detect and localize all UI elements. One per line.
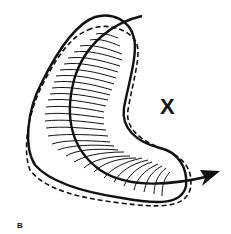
panel-label: B	[17, 222, 23, 230]
hatching	[45, 33, 170, 196]
diagram-figure	[0, 0, 231, 234]
x-marker: X	[160, 96, 175, 118]
